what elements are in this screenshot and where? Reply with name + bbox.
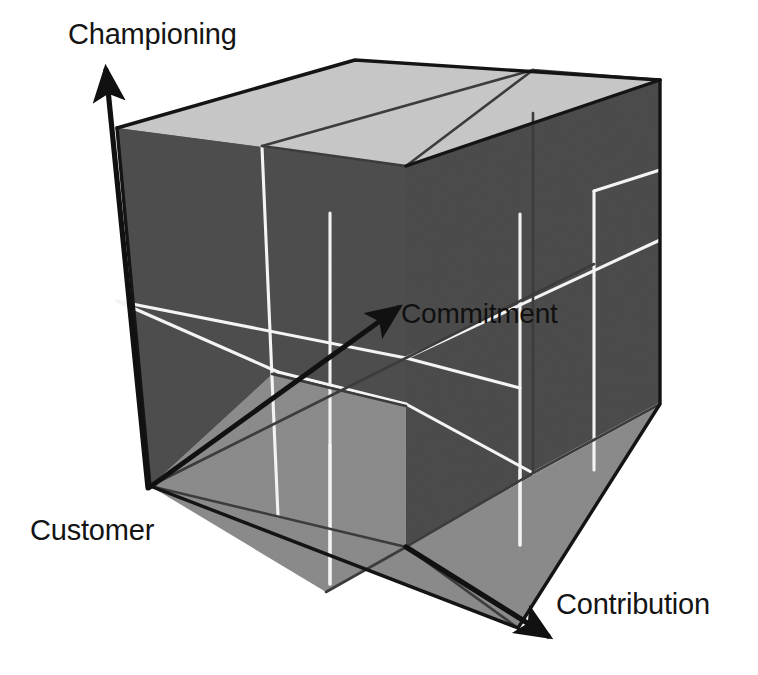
origin-label-customer: Customer <box>30 516 154 545</box>
axis-label-championing: Championing <box>68 20 237 49</box>
axis-label-contribution: Contribution <box>556 590 710 619</box>
cube-diagram-svg <box>0 0 758 675</box>
figure-root: Championing Customer Contribution Commit… <box>0 0 758 675</box>
axis-label-commitment: Commitment <box>401 300 558 328</box>
